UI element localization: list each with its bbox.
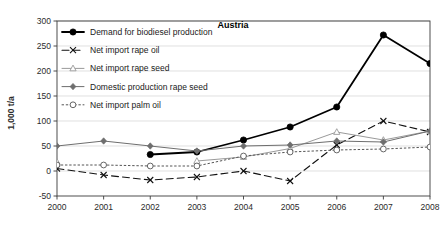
- legend-label: Net import rape oil: [90, 45, 160, 55]
- data-point-open-circle: [334, 147, 340, 153]
- x-tick-label: 2006: [327, 202, 346, 212]
- y-tick-label: 100: [37, 116, 51, 126]
- x-tick-label: 2001: [94, 202, 113, 212]
- x-tick-label: 2003: [187, 202, 206, 212]
- data-point-open-circle: [380, 146, 386, 152]
- data-point-filled-circle: [240, 137, 246, 143]
- data-point-open-circle: [241, 153, 247, 159]
- y-tick-label: 250: [37, 41, 51, 51]
- x-tick-label: 2007: [374, 202, 393, 212]
- data-point-open-circle: [70, 102, 76, 108]
- data-point-open-circle: [147, 163, 153, 169]
- data-point-filled-circle: [70, 29, 76, 35]
- x-tick-label: 2008: [421, 202, 440, 212]
- y-axis-title: 1,000 t/a: [6, 96, 16, 130]
- legend-label: Domestic production rape seed: [90, 82, 208, 92]
- legend-label: Net import palm oil: [90, 100, 161, 110]
- data-point-open-circle: [101, 162, 107, 168]
- y-tick-label: 0: [46, 166, 51, 176]
- legend-label: Net import rape seed: [90, 63, 170, 73]
- x-tick-label: 2000: [48, 202, 67, 212]
- y-tick-label: -50: [39, 191, 52, 201]
- y-tick-label: 300: [37, 16, 51, 26]
- x-tick-label: 2004: [234, 202, 253, 212]
- chart-figure: -50050100150200250300 200020012002200320…: [0, 0, 448, 230]
- x-tick-label: 2002: [141, 202, 160, 212]
- legend-label: Demand for biodiesel production: [90, 27, 213, 37]
- data-point-filled-circle: [287, 124, 293, 130]
- line-chart: -50050100150200250300 200020012002200320…: [0, 0, 448, 230]
- data-point-filled-circle: [334, 104, 340, 110]
- y-tick-label: 50: [42, 141, 52, 151]
- data-point-open-circle: [194, 163, 200, 169]
- y-tick-label: 200: [37, 66, 51, 76]
- data-point-filled-circle: [380, 32, 386, 38]
- chart-title: Austria: [217, 20, 249, 30]
- data-point-filled-circle: [147, 151, 153, 157]
- y-tick-label: 150: [37, 91, 51, 101]
- x-tick-label: 2005: [281, 202, 300, 212]
- data-point-open-circle: [287, 149, 293, 155]
